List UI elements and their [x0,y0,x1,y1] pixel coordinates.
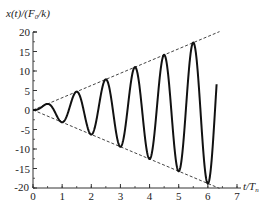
y-tick-label: -5 [21,124,31,136]
y-tick-label: -15 [15,163,30,175]
y-tick-label: -10 [15,143,30,155]
y-tick-label: 15 [19,46,31,58]
x-tick-label: 1 [59,190,65,202]
x-tick-label: 7 [234,190,240,202]
x-axis-title: t/Tn [243,180,259,194]
y-tick-label: 20 [19,26,31,38]
y-axis-title: x(t)/(F0/k) [5,7,50,21]
x-tick-label: 0 [30,190,36,202]
x-tick-label: 4 [147,190,153,202]
chart: 20151050-5-10-15-2001234567x(t)/(F0/k)t/… [0,0,267,210]
y-tick-label: -20 [14,181,29,193]
x-tick-label: 3 [118,190,124,202]
x-tick-label: 6 [205,190,211,202]
y-tick-label: 5 [25,85,31,97]
x-tick-label: 5 [176,190,182,202]
x-tick-label: 2 [89,190,95,202]
response-curve [33,43,217,184]
y-tick-label: 10 [19,65,31,77]
y-tick-label: 0 [25,104,31,116]
